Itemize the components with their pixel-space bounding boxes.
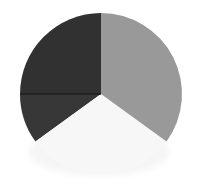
dark-upper-left-slice bbox=[20, 13, 101, 94]
pie-chart bbox=[0, 0, 200, 189]
chart-canvas bbox=[0, 0, 200, 189]
